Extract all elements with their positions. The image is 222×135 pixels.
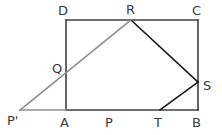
vertex-label-R: R (126, 3, 135, 16)
vertex-label-Q: Q (52, 62, 62, 75)
vertex-label-D: D (58, 4, 68, 17)
segment-fold-RS (131, 20, 198, 82)
vertex-label-T: T (154, 116, 162, 129)
vertex-label-A: A (60, 116, 69, 129)
geometry-figure: DRCQSP'APTB (0, 0, 222, 135)
segment-fold-TS (160, 82, 198, 110)
vertex-label-Pprime: P' (7, 114, 18, 127)
segment-ray-PprimeR (20, 20, 131, 110)
vertex-label-P: P (105, 116, 113, 129)
segments-layer (20, 20, 198, 110)
vertex-label-S: S (203, 79, 211, 92)
vertex-label-C: C (192, 4, 201, 17)
vertex-label-B: B (192, 116, 201, 129)
